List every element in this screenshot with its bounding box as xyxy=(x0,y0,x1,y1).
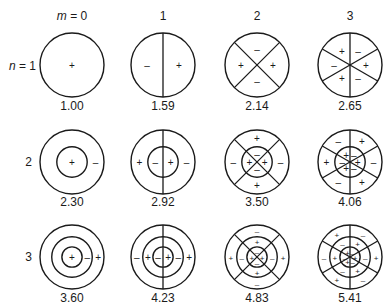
mode-m3-n1: +–+–+– xyxy=(318,33,382,97)
minus-sign: – xyxy=(270,254,275,263)
plus-sign: + xyxy=(359,136,365,147)
plus-sign: + xyxy=(136,157,142,168)
minus-sign: – xyxy=(254,149,260,160)
plus-sign: + xyxy=(332,254,337,263)
minus-sign: – xyxy=(93,157,99,168)
mode-m1-n2: +––+ xyxy=(131,130,195,194)
mode-diagram: +–++–+–+–+–+––++––+–+–++–+––+–+–++–+–+–+… xyxy=(0,0,390,308)
plus-sign: + xyxy=(246,157,252,168)
minus-sign: – xyxy=(175,252,181,263)
minus-sign: – xyxy=(355,73,361,84)
minus-sign: – xyxy=(278,157,284,168)
minus-sign: – xyxy=(351,150,357,161)
minus-sign: – xyxy=(335,136,341,147)
minus-sign: – xyxy=(84,252,90,263)
minus-sign: – xyxy=(340,267,345,276)
minus-sign: – xyxy=(350,249,355,258)
mode-m2-n2: –+–++–+– xyxy=(225,130,289,194)
plus-sign: + xyxy=(255,238,260,247)
plus-sign: + xyxy=(95,252,101,263)
minus-sign: – xyxy=(255,259,260,268)
plus-sign: + xyxy=(238,60,244,71)
minus-sign: – xyxy=(255,248,260,257)
plus-sign: + xyxy=(255,269,260,278)
minus-sign: – xyxy=(153,157,159,168)
minus-sign: – xyxy=(335,177,341,188)
plus-sign: + xyxy=(374,254,379,263)
minus-sign: – xyxy=(240,254,245,263)
plus-sign: + xyxy=(339,46,345,57)
mode-m3-n3: +–+–+––+–+–++–+–+– xyxy=(318,225,382,289)
minus-sign: – xyxy=(255,280,260,289)
plus-sign: + xyxy=(69,157,75,168)
minus-sign: – xyxy=(184,157,190,168)
minus-sign: – xyxy=(254,76,260,87)
plus-sign: + xyxy=(229,254,234,263)
minus-sign: – xyxy=(231,157,237,168)
minus-sign: – xyxy=(331,60,337,71)
plus-sign: + xyxy=(323,157,329,168)
minus-sign: – xyxy=(351,163,357,174)
plus-sign: + xyxy=(270,60,276,71)
minus-sign: – xyxy=(361,276,366,285)
plus-sign: + xyxy=(165,252,171,263)
plus-sign: + xyxy=(168,157,174,168)
mode-m0-n1: + xyxy=(40,33,104,97)
minus-sign: – xyxy=(134,252,140,263)
plus-sign: + xyxy=(260,254,265,263)
plus-sign: + xyxy=(339,73,345,84)
plus-sign: + xyxy=(254,180,260,191)
minus-sign: – xyxy=(361,231,366,240)
minus-sign: – xyxy=(254,164,260,175)
plus-sign: + xyxy=(363,60,369,71)
minus-sign: – xyxy=(255,227,260,236)
mode-m2-n1: +–+– xyxy=(225,33,289,97)
plus-sign: + xyxy=(262,157,268,168)
minus-sign: – xyxy=(355,46,361,57)
minus-sign: – xyxy=(155,252,161,263)
plus-sign: + xyxy=(186,252,192,263)
minus-sign: – xyxy=(254,44,260,55)
plus-sign: + xyxy=(355,240,360,249)
mode-m2-n3: +–+––+–++–+– xyxy=(225,225,289,289)
mode-m0-n2: –+ xyxy=(40,130,104,194)
plus-sign: + xyxy=(335,276,340,285)
plus-sign: + xyxy=(281,254,286,263)
plus-sign: + xyxy=(254,133,260,144)
minus-sign: – xyxy=(363,254,368,263)
plus-sign: + xyxy=(335,231,340,240)
plus-sign: + xyxy=(69,60,75,71)
minus-sign: – xyxy=(322,254,327,263)
plus-sign: + xyxy=(343,150,349,161)
minus-sign: – xyxy=(371,157,377,168)
mode-m3-n2: –+–+–++–+–+– xyxy=(318,130,382,194)
mode-m0-n3: +–+ xyxy=(40,225,104,289)
minus-sign: – xyxy=(350,258,355,267)
minus-sign: – xyxy=(340,240,345,249)
mode-m1-n3: –++––+ xyxy=(131,225,195,289)
mode-m1-n1: –+ xyxy=(131,33,195,97)
plus-sign: + xyxy=(69,252,75,263)
plus-sign: + xyxy=(176,60,182,71)
plus-sign: + xyxy=(355,267,360,276)
minus-sign: – xyxy=(144,60,150,71)
plus-sign: + xyxy=(145,252,151,263)
plus-sign: + xyxy=(359,177,365,188)
